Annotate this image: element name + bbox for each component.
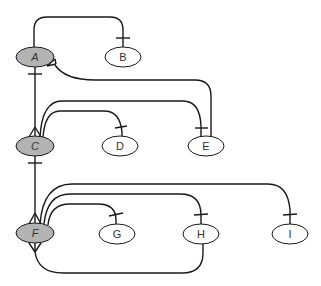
edge-f-h bbox=[44, 194, 201, 224]
edge-a-b bbox=[34, 17, 123, 47]
attribute-label: E bbox=[202, 140, 209, 152]
edge-c-e bbox=[40, 101, 201, 137]
edge-f-g bbox=[48, 204, 116, 225]
one-bar-icon bbox=[115, 126, 127, 128]
attribute-e[interactable]: E bbox=[188, 136, 224, 156]
attribute-label: D bbox=[116, 140, 124, 152]
edge-f-h-lower bbox=[35, 243, 203, 273]
entity-f[interactable]: F bbox=[16, 223, 54, 243]
attribute-d[interactable]: D bbox=[102, 136, 138, 156]
edge-c-d bbox=[43, 111, 122, 137]
entity-c[interactable]: C bbox=[16, 136, 54, 156]
attribute-label: H bbox=[197, 228, 205, 240]
edge-a-e bbox=[55, 65, 211, 140]
entity-label: C bbox=[31, 140, 39, 152]
entity-a[interactable]: A bbox=[16, 47, 54, 67]
one-bar-icon bbox=[194, 214, 208, 215]
one-bar-icon bbox=[283, 214, 297, 215]
attribute-b[interactable]: B bbox=[105, 47, 141, 67]
attribute-label: B bbox=[119, 51, 126, 63]
er-diagram: A B C D E F G H I bbox=[0, 0, 321, 286]
attribute-g[interactable]: G bbox=[99, 224, 135, 244]
attribute-label: G bbox=[113, 228, 122, 240]
attribute-label: I bbox=[288, 228, 291, 240]
attribute-h[interactable]: H bbox=[183, 224, 219, 244]
attribute-i[interactable]: I bbox=[272, 224, 308, 244]
entity-label: A bbox=[30, 51, 38, 63]
